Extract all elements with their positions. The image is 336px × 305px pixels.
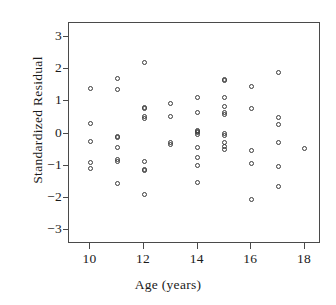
- x-axis-tick-label: 10: [69, 252, 109, 266]
- data-point: [222, 78, 227, 83]
- data-point: [88, 160, 93, 165]
- x-axis-tick-label: 16: [230, 252, 270, 266]
- data-point: [115, 76, 120, 81]
- data-point: [222, 95, 227, 100]
- y-axis-tick-mark: [63, 133, 68, 134]
- data-point: [88, 139, 93, 144]
- x-axis-tick-mark: [89, 243, 90, 249]
- data-point: [88, 86, 93, 91]
- y-axis-tick-label: −1: [47, 158, 62, 172]
- data-point: [195, 163, 200, 168]
- data-point: [276, 164, 281, 169]
- data-point: [276, 70, 281, 75]
- y-axis-tick-label: 0: [55, 126, 62, 140]
- data-point: [142, 60, 147, 65]
- x-axis-tick-mark: [304, 243, 305, 249]
- x-axis-tick-label: 14: [177, 252, 217, 266]
- y-axis-tick-mark: [63, 100, 68, 101]
- data-point: [195, 145, 200, 150]
- data-point: [222, 133, 227, 138]
- plot-frame: [68, 22, 320, 243]
- x-axis-title: Age (years): [0, 277, 336, 293]
- data-points-layer: [69, 23, 319, 242]
- y-axis-tick-label: −2: [47, 190, 62, 204]
- y-axis-tick-mark: [63, 165, 68, 166]
- data-point: [276, 122, 281, 127]
- data-point: [276, 184, 281, 189]
- data-point: [115, 159, 120, 164]
- data-point: [249, 106, 254, 111]
- data-point: [115, 135, 120, 140]
- data-point: [195, 95, 200, 100]
- data-point: [249, 84, 254, 89]
- data-point: [142, 192, 147, 197]
- y-axis-tick-label: 2: [55, 61, 62, 75]
- y-axis-tick-mark: [63, 36, 68, 37]
- data-point: [195, 180, 200, 185]
- data-point: [168, 142, 173, 147]
- data-point: [195, 110, 200, 115]
- data-point: [276, 115, 281, 120]
- data-point: [168, 101, 173, 106]
- y-axis-tick-label: −3: [47, 222, 62, 236]
- scatter-plot-figure: 3210−1−2−3 1012141618 Standardized Resid…: [0, 0, 336, 305]
- data-point: [222, 104, 227, 109]
- data-point: [222, 147, 227, 152]
- x-axis-tick-mark: [250, 243, 251, 249]
- data-point: [88, 166, 93, 171]
- data-point: [115, 145, 120, 150]
- data-point: [249, 148, 254, 153]
- data-point: [142, 159, 147, 164]
- data-point: [142, 168, 147, 173]
- y-axis-tick-label: 1: [55, 93, 62, 107]
- x-axis-tick-label: 18: [284, 252, 324, 266]
- data-point: [222, 112, 227, 117]
- data-point: [88, 121, 93, 126]
- data-point: [115, 181, 120, 186]
- y-axis-tick-mark: [63, 197, 68, 198]
- y-axis-tick-label: 3: [55, 29, 62, 43]
- y-axis-tick-mark: [63, 229, 68, 230]
- data-point: [249, 161, 254, 166]
- data-point: [302, 146, 307, 151]
- data-point: [115, 87, 120, 92]
- x-axis-tick-mark: [197, 243, 198, 249]
- y-axis-tick-mark: [63, 68, 68, 69]
- data-point: [168, 114, 173, 119]
- x-axis-tick-mark: [143, 243, 144, 249]
- data-point: [142, 106, 147, 111]
- x-axis-tick-label: 12: [123, 252, 163, 266]
- y-axis-title: Standardized Residual: [30, 20, 46, 220]
- data-point: [195, 155, 200, 160]
- data-point: [249, 197, 254, 202]
- data-point: [276, 140, 281, 145]
- data-point: [142, 116, 147, 121]
